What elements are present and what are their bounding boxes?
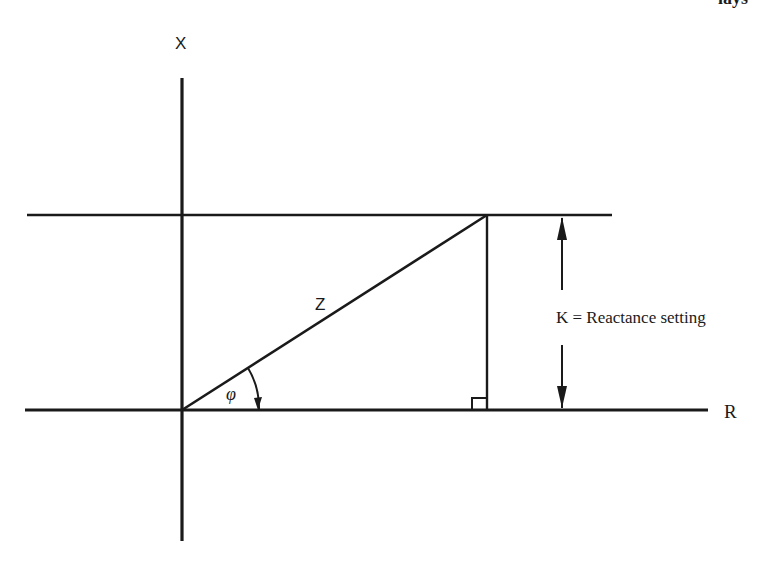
angle-label: φ — [226, 384, 236, 405]
angle-arrow-icon — [254, 397, 262, 410]
arrow-up-icon — [557, 217, 567, 240]
reactance-setting-label: K = Reactance setting — [556, 306, 706, 330]
right-angle-marker — [472, 398, 487, 410]
reactance-relay-diagram — [0, 0, 774, 565]
r-axis-label: R — [724, 401, 737, 423]
impedance-label: Z — [315, 295, 325, 315]
impedance-vector-z — [182, 215, 487, 410]
x-axis-label: X — [175, 34, 186, 54]
arrow-down-icon — [557, 386, 567, 408]
